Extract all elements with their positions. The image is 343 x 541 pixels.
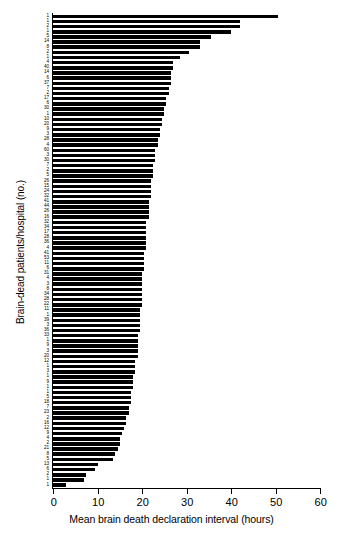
bar — [53, 133, 160, 137]
x-tick-label: 30 — [172, 496, 202, 509]
bar — [53, 66, 173, 70]
bar — [53, 252, 144, 256]
bar — [53, 210, 149, 214]
bar — [53, 82, 171, 86]
bar — [53, 45, 200, 49]
bar — [53, 468, 95, 472]
bar — [53, 174, 153, 178]
bar — [53, 205, 149, 209]
bar — [53, 313, 140, 317]
x-tick-mark — [98, 489, 99, 494]
bar — [53, 215, 149, 219]
x-tick-mark — [53, 489, 54, 494]
bar — [53, 483, 66, 487]
bar — [53, 179, 151, 183]
bar — [53, 478, 84, 482]
x-tick-label: 0 — [39, 496, 69, 509]
bar — [53, 226, 146, 230]
bar — [53, 272, 142, 276]
bar — [53, 288, 142, 292]
bar — [53, 458, 113, 462]
bar — [53, 396, 131, 400]
bar — [53, 329, 140, 333]
bar — [53, 391, 131, 395]
x-tick-label: 10 — [83, 496, 113, 509]
bar — [53, 246, 146, 250]
bar — [53, 257, 144, 261]
bar — [53, 112, 164, 116]
plot-area — [53, 14, 320, 488]
y-axis-tick-labels: 1121514821440146377217630110209328460330… — [0, 14, 51, 488]
bar — [53, 143, 158, 147]
bar — [53, 411, 129, 415]
bar — [53, 339, 138, 343]
bar — [53, 87, 169, 91]
bar — [53, 241, 146, 245]
bar — [53, 319, 140, 323]
bar — [53, 432, 122, 436]
x-tick-label: 20 — [128, 496, 158, 509]
bar — [53, 236, 146, 240]
bar — [53, 308, 140, 312]
x-axis-title: Mean brain death declaration interval (h… — [0, 513, 343, 525]
bar — [53, 149, 155, 153]
bar — [53, 97, 166, 101]
bar — [53, 386, 133, 390]
bar — [53, 277, 142, 281]
bar — [53, 15, 278, 19]
x-tick-label: 50 — [261, 496, 291, 509]
x-tick-mark — [276, 489, 277, 494]
x-tick-mark — [187, 489, 188, 494]
bar — [53, 159, 155, 163]
bar — [53, 169, 153, 173]
bar — [53, 355, 138, 359]
bar — [53, 422, 126, 426]
bar — [53, 298, 142, 302]
bar — [53, 401, 131, 405]
bar — [53, 360, 135, 364]
bar — [53, 365, 135, 369]
bar — [53, 231, 146, 235]
bar — [53, 138, 158, 142]
bar — [53, 427, 124, 431]
bar — [53, 473, 86, 477]
bar — [53, 164, 153, 168]
bar — [53, 76, 171, 80]
bar — [53, 102, 166, 106]
bar — [53, 56, 180, 60]
bar — [53, 463, 98, 467]
bar — [53, 380, 133, 384]
bar — [53, 293, 142, 297]
bar — [53, 324, 140, 328]
bar — [53, 447, 118, 451]
bar — [53, 195, 151, 199]
bar — [53, 154, 155, 158]
bar — [53, 30, 231, 34]
bar — [53, 416, 126, 420]
bar — [53, 262, 144, 266]
bar — [53, 118, 162, 122]
bar — [53, 334, 138, 338]
y-tick-label: 1 — [46, 483, 49, 488]
bar — [53, 303, 142, 307]
bar — [53, 35, 211, 39]
bar — [53, 71, 171, 75]
bar — [53, 406, 129, 410]
bar — [53, 370, 135, 374]
bar — [53, 40, 200, 44]
bar — [53, 107, 164, 111]
bar — [53, 92, 169, 96]
x-tick-mark — [142, 489, 143, 494]
bar — [53, 51, 189, 55]
bar — [53, 437, 120, 441]
bar — [53, 190, 151, 194]
bar — [53, 267, 144, 271]
bar — [53, 452, 115, 456]
bar — [53, 200, 149, 204]
bar-chart-figure: Brain-dead patients/hospital (no.) 11215… — [0, 0, 343, 541]
bar — [53, 442, 120, 446]
bar — [53, 20, 240, 24]
x-tick-mark — [231, 489, 232, 494]
x-tick-mark — [320, 489, 321, 494]
bar — [53, 375, 133, 379]
